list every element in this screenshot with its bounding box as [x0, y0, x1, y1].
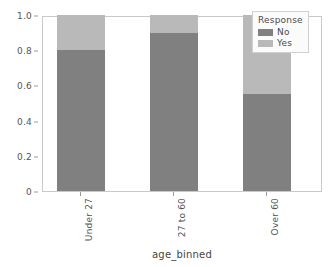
x-tick-mark: [266, 192, 267, 196]
x-tick-label-under-27: Under 27: [84, 198, 94, 241]
x-tick-mark: [173, 192, 174, 196]
x-axis: Under 27 27 to 60 Over 60: [42, 192, 322, 250]
x-axis-title: age_binned: [42, 249, 322, 260]
y-tick-mark: [34, 86, 38, 87]
legend-item-yes[interactable]: Yes: [258, 38, 303, 48]
y-tick-label: 0.4: [17, 117, 32, 127]
bar-segment-no[interactable]: [150, 33, 198, 191]
legend-label-no: No: [277, 27, 290, 37]
x-tick-label-27-to-60: 27 to 60: [177, 198, 187, 237]
legend: Response No Yes: [252, 11, 309, 53]
y-tick-label: 1.0: [17, 11, 32, 21]
y-tick-label: 0.6: [17, 81, 32, 91]
x-tick-mark: [80, 192, 81, 196]
y-tick-mark: [34, 51, 38, 52]
legend-item-no[interactable]: No: [258, 27, 303, 37]
y-tick-mark: [34, 192, 38, 193]
y-axis: 1.0 0.8 0.6 0.4 0.2 0: [0, 16, 38, 192]
y-tick-mark: [34, 16, 38, 17]
legend-swatch-no-icon: [258, 29, 273, 36]
bar-segment-no[interactable]: [243, 94, 291, 191]
bar-segment-yes[interactable]: [57, 15, 105, 50]
y-tick-label: 0: [26, 187, 32, 197]
legend-label-yes: Yes: [277, 38, 292, 48]
y-tick-mark: [34, 121, 38, 122]
bar-segment-no[interactable]: [57, 50, 105, 191]
legend-swatch-yes-icon: [258, 40, 273, 47]
legend-title: Response: [258, 15, 303, 25]
y-tick-label: 0.8: [17, 46, 32, 56]
chart-figure: 1.0 0.8 0.6 0.4 0.2 0 Under 27 27 t: [0, 0, 330, 267]
x-tick-label-over-60: Over 60: [270, 198, 280, 235]
y-tick-mark: [34, 156, 38, 157]
bar-segment-yes[interactable]: [150, 15, 198, 33]
y-tick-label: 0.2: [17, 152, 32, 162]
